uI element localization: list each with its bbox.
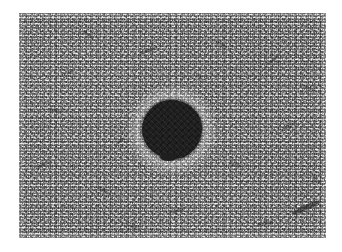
dark-inclusion-region [126,84,218,176]
inclusion-edge-nub [160,154,177,161]
figure-canvas [0,0,342,252]
dark-inclusion [142,100,202,159]
micrograph-plate [19,13,326,238]
inclusion-texture [142,100,202,159]
